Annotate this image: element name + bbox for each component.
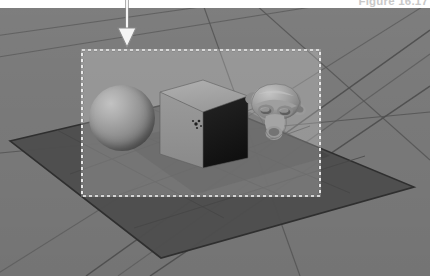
figure-caption: Figure 16.17 bbox=[358, 0, 428, 7]
sphere-object bbox=[89, 85, 155, 151]
blender-3d-viewport[interactable] bbox=[0, 8, 430, 276]
figure-root: Figure 16.17 bbox=[0, 0, 430, 276]
